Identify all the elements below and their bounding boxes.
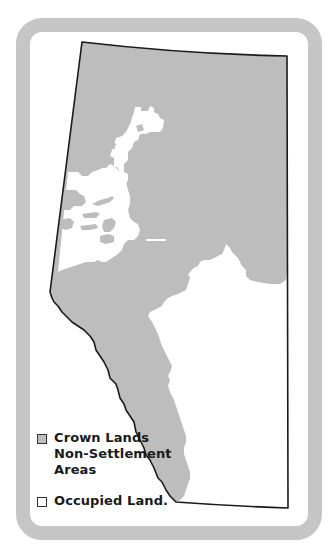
- legend-item-crown-lands: Crown Lands Non-Settlement Areas: [35, 430, 172, 478]
- crown-lands-swatch-icon: [37, 434, 47, 444]
- legend-label-line: Non-Settlement: [54, 446, 172, 462]
- occupied-land-swatch-icon: [37, 497, 47, 507]
- legend-label-line: Crown Lands: [54, 430, 172, 446]
- legend-label-line: Areas: [54, 462, 172, 478]
- map-legend: Crown Lands Non-Settlement Areas Occupie…: [35, 430, 172, 509]
- legend-label-line: Occupied Land.: [54, 493, 172, 509]
- legend-item-occupied-land: Occupied Land.: [35, 493, 172, 509]
